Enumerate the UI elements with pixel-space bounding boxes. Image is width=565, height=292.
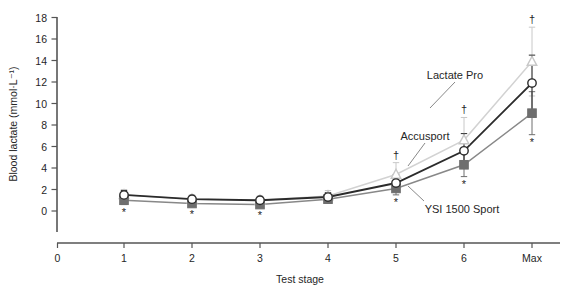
significance-mark-ysi-1500-sport-0: * bbox=[122, 206, 127, 218]
y-tick-label-12: 12 bbox=[35, 76, 47, 88]
y-axis: 18 16 14 12 10 8 6 4 2 0 Blood lactate (… bbox=[7, 12, 57, 233]
series-annotations: Lactate Pro Accusport YSI 1500 Sport bbox=[401, 69, 500, 215]
x-tick-label-6: 6 bbox=[461, 252, 467, 264]
y-tick-label-10: 10 bbox=[35, 98, 47, 110]
series-line-lactate-pro bbox=[124, 62, 532, 201]
marker-lactate-pro-6[interactable] bbox=[527, 56, 537, 65]
marker-accusport-6[interactable] bbox=[528, 79, 536, 87]
significance-mark-lactate-pro-6: † bbox=[529, 13, 535, 25]
y-tick-label-18: 18 bbox=[35, 12, 47, 24]
marker-accusport-5[interactable] bbox=[460, 147, 468, 155]
y-tick-label-6: 6 bbox=[41, 141, 47, 153]
y-tick-label-16: 16 bbox=[35, 33, 47, 45]
series-line-accusport bbox=[124, 83, 532, 200]
x-tick-label-max: Max bbox=[522, 252, 543, 264]
marker-ysi-1500-sport-5[interactable] bbox=[460, 160, 469, 169]
series-label-accusport: Accusport bbox=[401, 130, 450, 142]
significance-mark-ysi-1500-sport-1: * bbox=[190, 208, 195, 220]
blood-lactate-chart: 18 16 14 12 10 8 6 4 2 0 Blood lactate (… bbox=[0, 0, 565, 292]
y-tick-label-4: 4 bbox=[41, 162, 47, 174]
significance-mark-ysi-1500-sport-4: * bbox=[394, 196, 399, 208]
x-axis: 0 1 2 3 4 5 6 Max Test stage bbox=[55, 243, 560, 285]
y-tick-label-2: 2 bbox=[41, 184, 47, 196]
y-tick-label-0: 0 bbox=[41, 205, 47, 217]
x-tick-label-0: 0 bbox=[55, 252, 61, 264]
marker-accusport-2[interactable] bbox=[256, 196, 264, 204]
significance-mark-ysi-1500-sport-5: * bbox=[462, 178, 467, 190]
marker-accusport-1[interactable] bbox=[188, 195, 196, 203]
marker-lactate-pro-4[interactable] bbox=[391, 169, 401, 178]
marker-accusport-3[interactable] bbox=[324, 193, 332, 201]
x-tick-label-5: 5 bbox=[393, 252, 399, 264]
chart-svg: 18 16 14 12 10 8 6 4 2 0 Blood lactate (… bbox=[0, 0, 565, 292]
x-tick-label-3: 3 bbox=[257, 252, 263, 264]
significance-mark-lactate-pro-5: † bbox=[461, 103, 467, 115]
significance-mark-lactate-pro-4: † bbox=[393, 149, 399, 161]
leader-line-accusport bbox=[408, 143, 425, 166]
y-tick-label-14: 14 bbox=[35, 55, 47, 67]
marker-ysi-1500-sport-6[interactable] bbox=[528, 109, 537, 118]
series-layer: †††****** bbox=[119, 13, 537, 221]
x-tick-label-2: 2 bbox=[189, 252, 195, 264]
marker-accusport-0[interactable] bbox=[120, 191, 128, 199]
series-label-ysi: YSI 1500 Sport bbox=[425, 203, 500, 215]
series-label-lactate-pro: Lactate Pro bbox=[427, 69, 483, 81]
leader-line-lactate-pro bbox=[430, 82, 455, 108]
y-axis-title: Blood lactate (mmol·L⁻¹) bbox=[7, 66, 19, 181]
x-tick-label-4: 4 bbox=[325, 252, 331, 264]
significance-mark-ysi-1500-sport-6: * bbox=[530, 136, 535, 148]
x-axis-title: Test stage bbox=[276, 273, 324, 285]
x-tick-label-1: 1 bbox=[121, 252, 127, 264]
y-tick-label-8: 8 bbox=[41, 119, 47, 131]
marker-accusport-4[interactable] bbox=[392, 179, 400, 187]
leader-line-ysi bbox=[408, 186, 424, 201]
significance-mark-ysi-1500-sport-2: * bbox=[258, 209, 263, 221]
